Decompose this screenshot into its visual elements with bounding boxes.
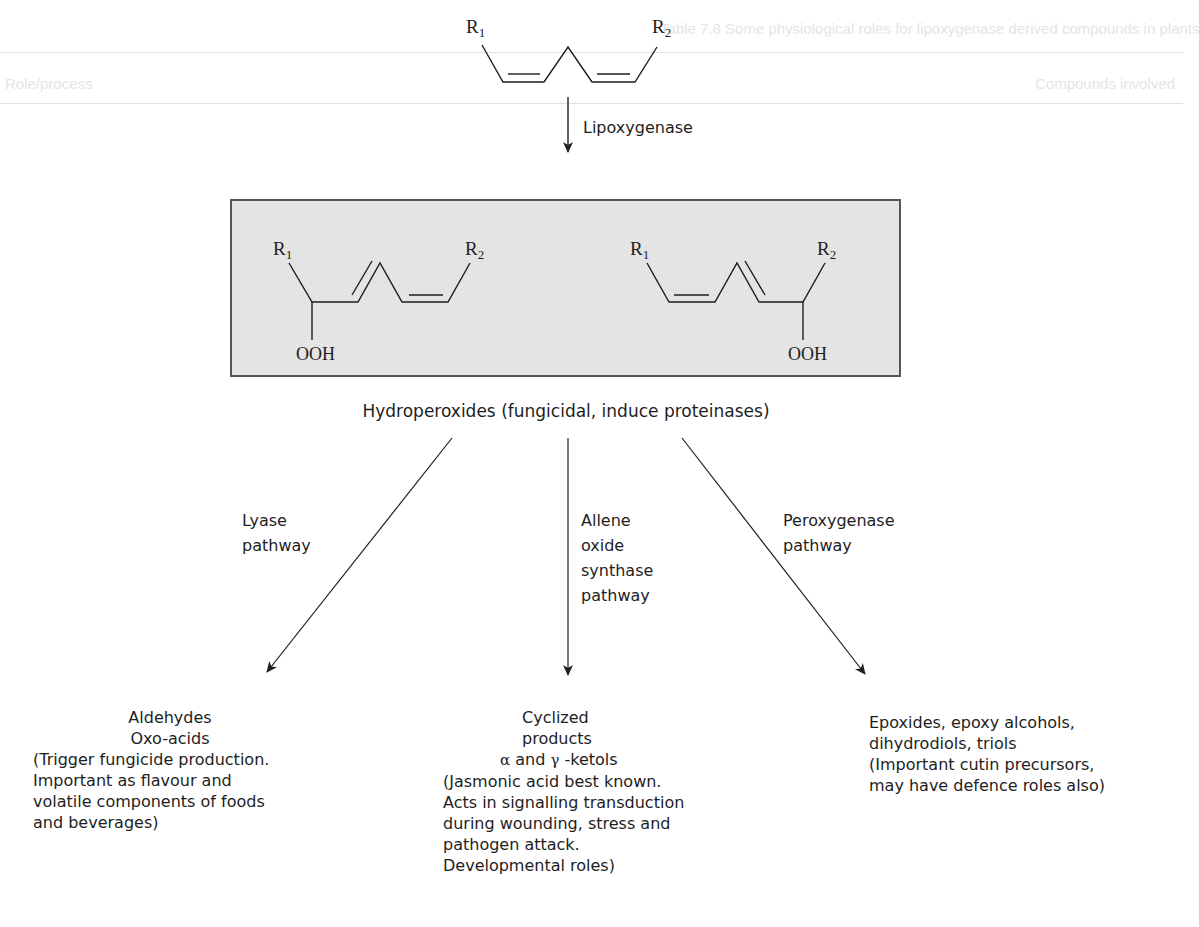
product-description: (Important cutin precursors, xyxy=(869,754,1179,775)
hydroperoxides-caption: Hydroperoxides (fungicidal, induce prote… xyxy=(266,402,866,421)
product-title: dihydrodiols, triols xyxy=(869,733,1179,754)
allene-oxide-products: Cyclized products α and γ -ketols (Jasmo… xyxy=(443,707,743,876)
left-r1: R1 xyxy=(273,238,292,263)
lipoxygenase-label: Lipoxygenase xyxy=(583,118,693,137)
right-ooh: OOH xyxy=(788,344,827,365)
product-description: pathogen attack. xyxy=(443,834,743,855)
product-description: Acts in signalling transduction xyxy=(443,792,743,813)
peroxygenase-pathway-label: Peroxygenase pathway xyxy=(783,508,895,558)
left-r2: R2 xyxy=(465,238,484,263)
product-title: Aldehydes xyxy=(15,707,325,728)
product-description: volatile components of foods xyxy=(33,791,343,812)
substrate-r2: R2 xyxy=(652,16,671,41)
lyase-pathway-label: Lyase pathway xyxy=(242,508,311,558)
product-ketols: α and γ -ketols xyxy=(443,749,743,771)
substrate-molecule xyxy=(482,45,657,82)
product-description: and beverages) xyxy=(33,812,343,833)
allene-oxide-pathway-label: Allene oxide synthase pathway xyxy=(581,508,653,608)
product-description: Important as flavour and xyxy=(33,770,343,791)
right-r1: R1 xyxy=(630,238,649,263)
lyase-products: Aldehydes Oxo-acids (Trigger fungicide p… xyxy=(33,707,343,833)
substrate-r1: R1 xyxy=(466,16,485,41)
product-title: Oxo-acids xyxy=(15,728,325,749)
product-title: Epoxides, epoxy alcohols, xyxy=(869,712,1179,733)
left-ooh: OOH xyxy=(296,344,335,365)
product-title: Cyclized xyxy=(443,707,743,728)
right-r2: R2 xyxy=(817,238,836,263)
product-description: during wounding, stress and xyxy=(443,813,743,834)
product-description: Developmental roles) xyxy=(443,855,743,876)
peroxygenase-products: Epoxides, epoxy alcohols, dihydrodiols, … xyxy=(869,712,1179,796)
product-description: (Jasmonic acid best known. xyxy=(443,771,743,792)
product-description: may have defence roles also) xyxy=(869,775,1179,796)
product-description: (Trigger fungicide production. xyxy=(33,749,343,770)
product-title: products xyxy=(443,728,743,749)
